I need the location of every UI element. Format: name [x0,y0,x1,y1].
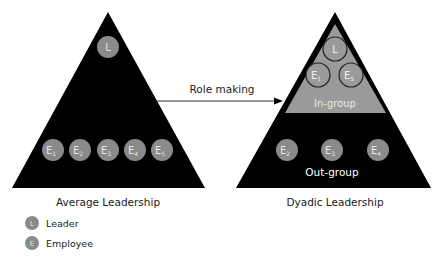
svg-text:L: L [332,44,338,55]
average-leadership-pyramid: L E1 E2 E3 E4 E5 Average Leadership [12,12,205,208]
in-group-member-node: E1 [306,63,330,87]
in-group-member-node: E5 [339,63,363,87]
out-group-member-node: E2 [276,139,298,161]
average-leadership-caption: Average Leadership [56,196,160,208]
out-group-label: Out-group [305,166,359,178]
legend-item-employee: E Employee [25,236,93,250]
in-group-leader-node: L [323,37,347,61]
legend-label: Employee [46,238,93,249]
role-making-arrow: Role making [157,83,283,105]
in-group-label: In-group [314,98,356,109]
employee-node: E4 [124,139,146,161]
out-group-member-node: E3 [321,139,343,161]
role-making-label: Role making [190,83,255,95]
arrow-head-icon [274,98,283,105]
dyadic-leadership-pyramid: L E1 E5 In-group E2 E3 E4 Out-group Dyad… [236,12,431,208]
employee-node: E3 [97,139,119,161]
dyadic-leadership-caption: Dyadic Leadership [286,196,383,208]
svg-text:L: L [30,220,34,228]
svg-text:L: L [105,42,111,53]
legend-label: Leader [46,218,79,229]
employee-node: E5 [151,139,173,161]
legend: L Leader E Employee [25,216,93,250]
legend-item-leader: L Leader [25,216,79,230]
employee-node: E1 [42,139,64,161]
leadership-diagram: L E1 E2 E3 E4 E5 Average Leadership Role… [0,0,436,262]
out-group-member-node: E4 [367,139,389,161]
employee-node: E2 [69,139,91,161]
svg-text:E: E [30,240,34,248]
leader-node: L [97,36,119,58]
